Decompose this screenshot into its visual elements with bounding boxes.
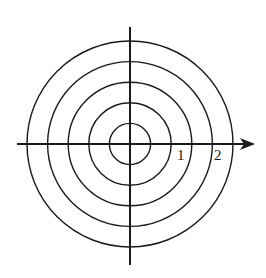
- polar-coordinate-diagram: 1 2: [0, 0, 266, 278]
- tick-label-1: 1: [177, 147, 185, 163]
- tick-label-2: 2: [214, 147, 222, 163]
